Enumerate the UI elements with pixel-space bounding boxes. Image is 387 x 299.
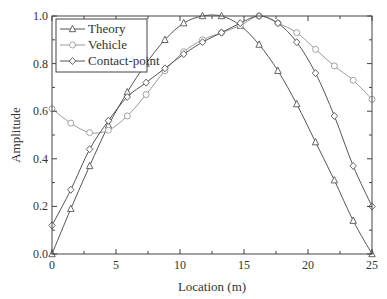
- triangle-marker: [68, 205, 74, 211]
- x-tick-label: 25: [366, 258, 378, 272]
- legend: TheoryVehicleContact-point: [56, 19, 160, 72]
- x-tick-label: 20: [302, 258, 314, 272]
- circle-marker: [331, 63, 337, 69]
- y-tick-label: 1.0: [33, 9, 48, 23]
- triangle-marker: [294, 100, 300, 106]
- diamond-marker: [350, 162, 356, 169]
- y-tick-label: 0.0: [33, 247, 48, 261]
- y-axis-label: Amplitude: [8, 107, 23, 163]
- circle-marker: [87, 130, 93, 136]
- diamond-marker: [68, 186, 74, 193]
- circle-marker: [68, 120, 74, 126]
- y-tick-label: 0.4: [33, 152, 48, 166]
- triangle-marker: [331, 177, 337, 183]
- y-tick-label: 0.8: [33, 57, 48, 71]
- y-tick-label: 0.2: [33, 199, 48, 213]
- circle-marker: [143, 92, 149, 98]
- triangle-marker: [181, 19, 187, 25]
- triangle-marker: [86, 162, 92, 168]
- x-tick-label: 10: [174, 258, 186, 272]
- diamond-marker: [143, 79, 149, 86]
- circle-marker: [124, 113, 130, 119]
- diamond-marker: [86, 146, 92, 153]
- circle-marker: [70, 42, 76, 48]
- circle-marker: [105, 127, 111, 133]
- legend-label: Vehicle: [88, 37, 127, 52]
- circle-marker: [294, 30, 300, 36]
- diamond-marker: [312, 70, 318, 77]
- triangle-marker: [350, 217, 356, 223]
- x-tick-label: 0: [49, 258, 55, 272]
- chart: 05101520250.00.20.40.60.81.0 TheoryVehic…: [0, 0, 387, 299]
- diamond-marker: [331, 112, 337, 119]
- legend-label: Contact-point: [88, 53, 160, 68]
- triangle-marker: [312, 138, 318, 144]
- x-tick-label: 15: [238, 258, 250, 272]
- legend-label: Theory: [88, 21, 126, 36]
- y-tick-label: 0.6: [33, 104, 48, 118]
- x-axis-label: Location (m): [178, 279, 246, 294]
- circle-marker: [313, 46, 319, 52]
- circle-marker: [350, 77, 356, 83]
- x-tick-label: 5: [113, 258, 119, 272]
